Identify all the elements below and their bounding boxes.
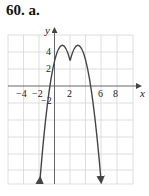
y-tick: 2 xyxy=(46,63,51,74)
parabola-chart: y x −4 −2 2 6 8 4 2 −2 xyxy=(0,0,149,196)
y-tick: 4 xyxy=(46,46,51,57)
y-axis-label: y xyxy=(44,24,50,36)
x-tick: 6 xyxy=(98,88,103,99)
axes xyxy=(8,30,139,184)
y-tick: −2 xyxy=(41,95,52,106)
x-axis-label: x xyxy=(139,87,145,99)
x-tick: 2 xyxy=(67,88,72,99)
x-tick: −4 xyxy=(16,88,27,99)
x-tick: 8 xyxy=(113,88,118,99)
